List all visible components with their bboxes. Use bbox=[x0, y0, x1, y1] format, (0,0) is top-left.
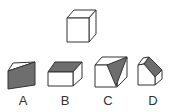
option-c-label: C bbox=[100, 93, 116, 108]
reference-cube bbox=[67, 10, 96, 42]
option-b-label: B bbox=[57, 93, 73, 108]
option-d-shape[interactable] bbox=[138, 57, 162, 85]
option-a-shape[interactable] bbox=[8, 62, 35, 89]
option-d-label: D bbox=[145, 93, 161, 108]
option-b-shape[interactable] bbox=[48, 62, 82, 86]
option-a-label: A bbox=[15, 93, 31, 108]
option-c-shape[interactable] bbox=[95, 57, 127, 87]
